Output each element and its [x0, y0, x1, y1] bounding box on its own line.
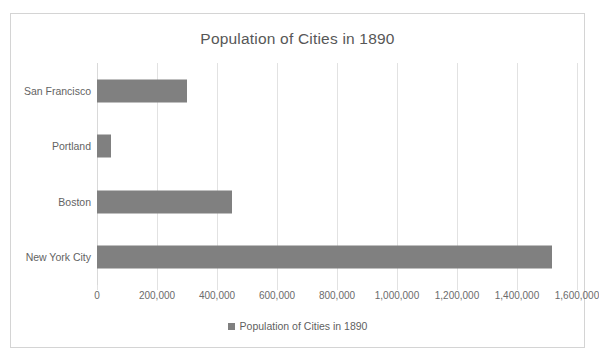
bar-slot [97, 230, 577, 286]
chart-title: Population of Cities in 1890 [11, 30, 584, 48]
category-label: Boston [58, 196, 97, 208]
value-tick-label: 1,200,000 [435, 290, 480, 301]
bar-slot [97, 119, 577, 175]
chart-legend: Population of Cities in 1890 [11, 320, 584, 332]
value-tick-label: 0 [94, 290, 100, 301]
bar[interactable] [97, 79, 187, 102]
category-label: Portland [52, 140, 97, 152]
category-label: San Francisco [24, 85, 97, 97]
value-tick-label: 1,400,000 [495, 290, 540, 301]
plot-area [97, 63, 577, 285]
bar[interactable] [97, 135, 111, 158]
category-label: New York City [26, 251, 97, 263]
value-tick-label: 200,000 [139, 290, 175, 301]
legend-swatch-icon [228, 323, 235, 330]
bar-slot [97, 63, 577, 119]
bar[interactable] [97, 190, 232, 213]
legend-label: Population of Cities in 1890 [240, 320, 368, 332]
value-tick-label: 600,000 [259, 290, 295, 301]
value-tick-label: 1,000,000 [375, 290, 420, 301]
chart-frame: Population of Cities in 1890 San Francis… [10, 13, 585, 348]
category-axis-labels: San FranciscoPortlandBostonNew York City [11, 63, 97, 285]
bar-slot [97, 174, 577, 230]
value-axis-labels: 0200,000400,000600,000800,0001,000,0001,… [97, 290, 577, 306]
gridline [577, 63, 578, 285]
value-tick-label: 400,000 [199, 290, 235, 301]
value-tick-label: 800,000 [319, 290, 355, 301]
value-tick-label: 1,600,000 [555, 290, 599, 301]
bar[interactable] [97, 246, 552, 269]
